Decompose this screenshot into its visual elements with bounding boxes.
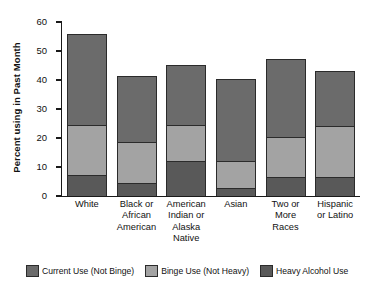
bar-segment: [67, 34, 107, 125]
bar-segment: [166, 65, 206, 125]
bar-segment: [216, 161, 256, 188]
x-label-6: Hispanicor Latino: [307, 199, 363, 222]
bar-segment: [315, 126, 355, 177]
y-tick-label-30: 30: [23, 104, 47, 114]
y-axis-title-text: Percent using in Past Month: [11, 42, 22, 172]
x-label-2: Black orAfricanAmerican: [109, 199, 165, 233]
legend-swatch: [145, 265, 158, 277]
bar-segment: [67, 125, 107, 175]
bar-segment: [216, 188, 256, 196]
x-label-line: Races: [258, 222, 314, 233]
y-tick-label-60: 60: [23, 17, 47, 27]
x-label-line: American: [158, 199, 214, 210]
bar-segment: [117, 142, 157, 183]
bar-segment: [166, 161, 206, 196]
bar-segment: [117, 183, 157, 196]
x-label-line: Alaska: [158, 222, 214, 233]
bar-4: [216, 79, 256, 196]
bar-segment: [216, 79, 256, 161]
bars-container: [62, 22, 360, 196]
x-label-3: AmericanIndian orAlaskaNative: [158, 199, 214, 245]
bar-segment: [117, 76, 157, 142]
x-label-line: Asian: [208, 199, 264, 210]
bar-5: [266, 59, 306, 196]
legend-label: Heavy Alcohol Use: [276, 266, 348, 276]
legend-item-2: Binge Use (Not Heavy): [145, 265, 249, 277]
x-label-line: American: [109, 222, 165, 233]
chart-legend: Current Use (Not Binge)Binge Use (Not He…: [26, 265, 356, 277]
x-label-line: Indian or: [158, 210, 214, 221]
bar-segment: [266, 177, 306, 196]
x-label-line: or Latino: [307, 210, 363, 221]
bar-segment: [315, 177, 355, 196]
stacked-bar-chart: Percent using in Past Month 010203040506…: [0, 0, 371, 289]
bar-6: [315, 71, 355, 196]
bar-segment: [266, 59, 306, 137]
y-tick-label-40: 40: [23, 75, 47, 85]
x-label-line: African: [109, 210, 165, 221]
x-label-line: Hispanic: [307, 199, 363, 210]
x-label-line: Native: [158, 233, 214, 244]
bar-segment: [315, 71, 355, 126]
x-axis-category-labels: WhiteBlack orAfricanAmericanAmericanIndi…: [62, 199, 360, 251]
x-axis-line: [61, 196, 360, 197]
bar-1: [67, 34, 107, 196]
y-tick-label-50: 50: [23, 46, 47, 56]
legend-label: Current Use (Not Binge): [42, 266, 134, 276]
bar-segment: [67, 175, 107, 196]
x-label-4: Asian: [208, 199, 264, 210]
x-label-5: Two orMoreRaces: [258, 199, 314, 233]
bar-segment: [266, 137, 306, 177]
x-label-line: More: [258, 210, 314, 221]
bar-3: [166, 65, 206, 196]
x-label-1: White: [59, 199, 115, 210]
y-axis-title: Percent using in Past Month: [9, 18, 23, 196]
legend-label: Binge Use (Not Heavy): [161, 266, 249, 276]
bar-2: [117, 76, 157, 196]
x-label-line: White: [59, 199, 115, 210]
y-tick-label-10: 10: [23, 162, 47, 172]
legend-item-1: Current Use (Not Binge): [26, 265, 134, 277]
bar-segment: [166, 125, 206, 161]
y-tick-label-0: 0: [23, 191, 47, 201]
x-label-line: Two or: [258, 199, 314, 210]
legend-swatch: [260, 265, 273, 277]
y-tick-label-20: 20: [23, 133, 47, 143]
plot-area: 0102030405060: [62, 22, 360, 196]
legend-item-3: Heavy Alcohol Use: [260, 265, 348, 277]
legend-swatch: [26, 265, 39, 277]
x-label-line: Black or: [109, 199, 165, 210]
